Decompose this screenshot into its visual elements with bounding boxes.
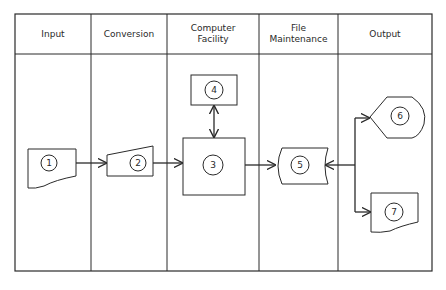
column-header-file-maintenance: File Maintenance [259, 14, 338, 54]
node-1-label: 1 [46, 158, 52, 168]
column-header-input: Input [15, 14, 91, 54]
node-3-label: 3 [210, 160, 216, 170]
node-6-label: 6 [397, 111, 403, 121]
node-1-shape[interactable] [28, 149, 76, 188]
node-5-shape[interactable] [278, 148, 328, 184]
node-2-label: 2 [135, 158, 141, 168]
column-header-output: Output [338, 14, 432, 54]
column-header-computer-facility: Computer Facility [167, 14, 259, 54]
node-7-label: 7 [391, 207, 397, 217]
node-5-label: 5 [297, 160, 303, 170]
column-header-conversion: Conversion [91, 14, 167, 54]
node-4-label: 4 [211, 85, 217, 95]
